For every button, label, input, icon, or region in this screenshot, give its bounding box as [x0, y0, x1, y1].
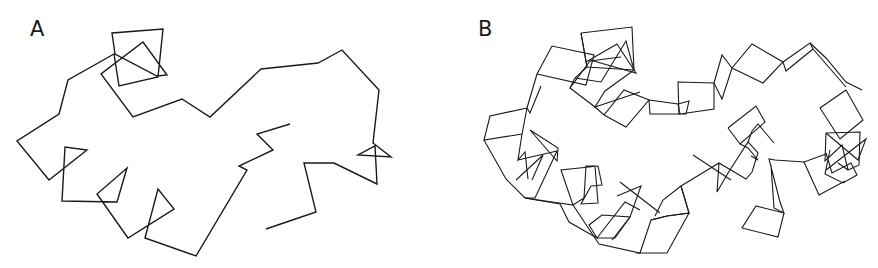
- panel-b-ribbon: [484, 27, 866, 253]
- panel-a-backbone-trace: [17, 29, 391, 256]
- figure-canvas: [0, 0, 878, 268]
